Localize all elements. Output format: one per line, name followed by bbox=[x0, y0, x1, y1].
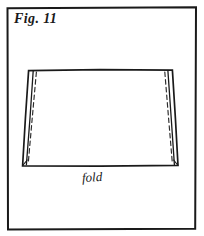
figure-drawing bbox=[0, 0, 204, 236]
fold-annotation-label: fold bbox=[82, 170, 103, 184]
figure-container: Fig. 11 fold bbox=[0, 0, 204, 236]
paper-trapezoid bbox=[23, 70, 178, 167]
figure-caption: Fig. 11 bbox=[14, 12, 57, 26]
